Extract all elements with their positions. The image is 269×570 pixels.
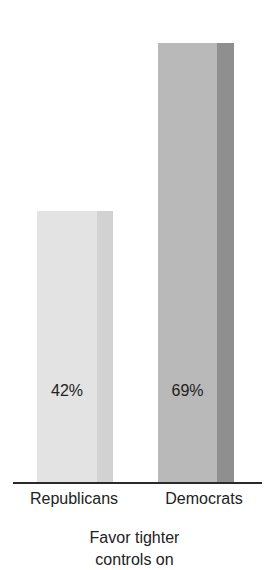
bar-democrats-face (158, 43, 217, 482)
category-label-democrats: Democrats (150, 490, 258, 508)
bar-republicans: 42% (37, 211, 113, 482)
bar-republicans-face (37, 211, 97, 482)
category-label-republicans: Republicans (14, 490, 134, 508)
bar-democrats-value-label: 69% (158, 382, 217, 400)
x-axis-caption-line1: Favor tighter (0, 527, 269, 549)
x-axis-baseline (13, 482, 262, 484)
x-axis-caption-line2: controls on (0, 549, 269, 570)
bar-republicans-value-label: 42% (37, 382, 97, 400)
bar-democrats-side (217, 43, 234, 482)
bar-republicans-side (97, 211, 113, 482)
bar-democrats: 69% (158, 43, 234, 482)
